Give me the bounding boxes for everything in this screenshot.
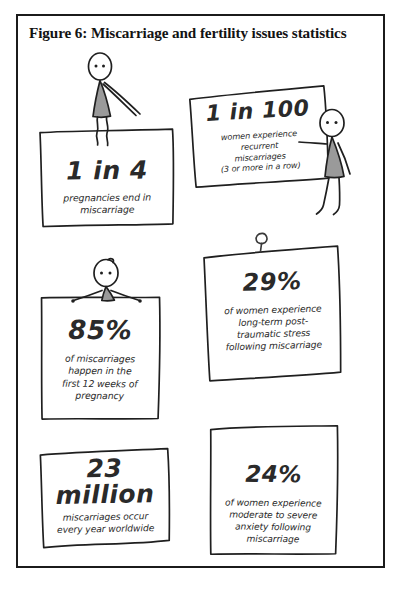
card-outline — [206, 422, 341, 558]
card-outline — [37, 447, 173, 550]
stick-figure-sitting-icon — [70, 52, 164, 148]
figure-panel: Figure 6: Miscarriage and fertility issu… — [0, 0, 401, 595]
stick-figure-pointing-icon — [300, 104, 386, 222]
figure-title: Figure 6: Miscarriage and fertility issu… — [29, 24, 374, 42]
stat-card-85-percent: 85% of miscarriages happen in the first … — [37, 294, 162, 421]
card-outline — [201, 244, 345, 383]
stick-figure-peeking-icon — [58, 256, 164, 310]
card-outline — [37, 294, 162, 421]
stat-card-24-percent: 24% of women experience moderate to seve… — [206, 422, 341, 558]
stat-card-23-million: 23 million miscarriages occur every year… — [37, 447, 173, 550]
stat-card-29-percent: 29% of women experience long-term post- … — [201, 244, 345, 383]
thumbtack-pin-icon — [248, 231, 278, 255]
